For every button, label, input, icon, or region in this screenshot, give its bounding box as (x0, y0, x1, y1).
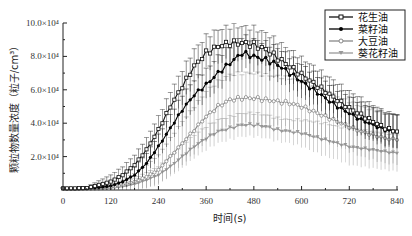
x-tick-label: 360 (199, 196, 213, 206)
x-tick-label: 120 (104, 196, 118, 206)
svg-text:菜籽油: 菜籽油 (358, 23, 388, 35)
svg-text:大豆油: 大豆油 (358, 35, 388, 47)
open-circle-marker-icon (339, 39, 343, 43)
x-tick-label: 240 (152, 196, 166, 206)
x-tick-label: 480 (247, 196, 261, 206)
svg-text:葵花籽油: 葵花籽油 (358, 47, 398, 59)
y-tick-label: 8.0×10⁴ (31, 51, 59, 61)
y-tick-label: 2.0×10⁴ (31, 152, 59, 162)
legend: 花生油 菜籽油 大豆油 葵花籽油 (325, 10, 405, 60)
open-square-marker-icon (339, 15, 343, 19)
chart: 2.0×10⁴4.0×10⁴6.0×10⁴8.0×10⁴10.0×10⁴ 012… (0, 0, 412, 236)
x-tick-label: 720 (343, 196, 357, 206)
x-tick-label: 840 (390, 196, 404, 206)
y-tick-label: 4.0×10⁴ (31, 118, 59, 128)
y-tick-label: 10.0×10⁴ (26, 18, 59, 28)
svg-text:花生油: 花生油 (358, 11, 388, 23)
filled-circle-marker-icon (339, 27, 343, 31)
y-tick-label: 6.0×10⁴ (31, 85, 59, 95)
y-axis-title: 颗粒物数量浓度（粒子/cm³） (8, 41, 20, 174)
x-tick-label: 600 (295, 196, 309, 206)
x-tick-label: 0 (61, 196, 66, 206)
x-axis-title: 时间(s) (213, 212, 246, 224)
x-ticks: 0120240360480600720840 (61, 186, 405, 206)
y-ticks: 2.0×10⁴4.0×10⁴6.0×10⁴8.0×10⁴10.0×10⁴ (26, 18, 67, 173)
